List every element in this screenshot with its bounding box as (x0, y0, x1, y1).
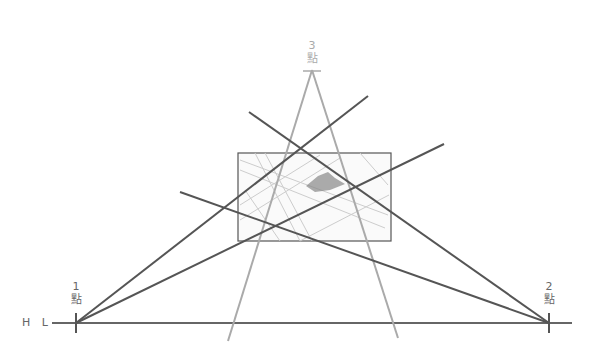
vp1-char: 點 (68, 293, 84, 306)
vp3-number: 3 (304, 39, 320, 52)
perspective-diagram (0, 0, 605, 357)
vp3-char: 點 (304, 52, 320, 65)
vp2-char: 點 (541, 293, 557, 306)
sketch-image (238, 153, 391, 241)
vp2-number: 2 (541, 280, 557, 293)
vp2-label: 2 點 (541, 280, 557, 306)
vp3-label: 3 點 (304, 39, 320, 65)
horizon-label: H L (22, 316, 52, 329)
vp1-number: 1 (68, 280, 84, 293)
vp1-label: 1 點 (68, 280, 84, 306)
